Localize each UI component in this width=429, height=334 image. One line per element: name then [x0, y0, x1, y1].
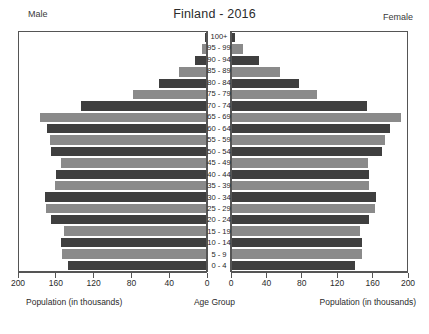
- bar-row: [232, 191, 407, 202]
- bar-row: [232, 112, 407, 123]
- male-bar-40-44[interactable]: [56, 170, 206, 179]
- axis-tick-label: 40: [164, 278, 173, 288]
- bar-row: [232, 43, 407, 54]
- female-bar-50-54[interactable]: [232, 147, 382, 156]
- age-group-label: 100+: [208, 31, 230, 42]
- female-bar-30-34[interactable]: [232, 192, 376, 201]
- female-bar-70-74[interactable]: [232, 101, 367, 110]
- male-bar-85-89[interactable]: [179, 67, 206, 76]
- bar-row: [19, 112, 206, 123]
- bar-row: [19, 260, 206, 271]
- male-bar-80-84[interactable]: [159, 79, 206, 88]
- age-group-label: 45 - 49: [208, 157, 230, 168]
- age-group-label: 70 - 74: [208, 100, 230, 111]
- bar-row: [19, 225, 206, 236]
- female-bar-80-84[interactable]: [232, 79, 299, 88]
- female-bar-95-99[interactable]: [232, 44, 243, 53]
- male-bar-10-14[interactable]: [61, 238, 206, 247]
- chart-title: Finland - 2016: [0, 7, 429, 21]
- male-bar-45-49[interactable]: [61, 158, 206, 167]
- male-bar-35-39[interactable]: [55, 181, 206, 190]
- male-bar-15-19[interactable]: [64, 226, 206, 235]
- age-group-label: 65 - 69: [208, 111, 230, 122]
- bar-row: [232, 214, 407, 225]
- age-group-axis-labels: 100+95 - 9990 - 9485 - 8980 - 8475 - 797…: [207, 31, 231, 272]
- age-group-label: 5 - 9: [208, 249, 230, 260]
- age-group-label: 90 - 94: [208, 54, 230, 65]
- male-bar-30-34[interactable]: [45, 192, 206, 201]
- female-bar-10-14[interactable]: [232, 238, 362, 247]
- male-bar-5-9[interactable]: [62, 249, 206, 258]
- female-bar-5-9[interactable]: [232, 249, 362, 258]
- female-bar-100+[interactable]: [232, 33, 235, 42]
- male-bar-55-59[interactable]: [50, 135, 206, 144]
- male-bar-95-99[interactable]: [202, 44, 206, 53]
- female-bar-55-59[interactable]: [232, 135, 385, 144]
- bar-row: [19, 123, 206, 134]
- female-bar-rows: [232, 32, 407, 271]
- male-bar-100+[interactable]: [205, 33, 206, 42]
- female-bar-35-39[interactable]: [232, 181, 369, 190]
- male-bar-0-4[interactable]: [68, 261, 206, 270]
- bar-row: [19, 43, 206, 54]
- female-axis-title: Population (in thousands): [320, 297, 416, 307]
- female-bar-85-89[interactable]: [232, 67, 280, 76]
- bar-row: [19, 146, 206, 157]
- axis-tick-label: 160: [366, 278, 380, 288]
- bar-row: [19, 100, 206, 111]
- male-bar-75-79[interactable]: [133, 90, 206, 99]
- bar-row: [19, 237, 206, 248]
- bar-row: [19, 203, 206, 214]
- axis-tick-label: 80: [127, 278, 136, 288]
- female-bar-45-49[interactable]: [232, 158, 368, 167]
- bar-row: [232, 78, 407, 89]
- female-bar-20-24[interactable]: [232, 215, 369, 224]
- female-bar-15-19[interactable]: [232, 226, 360, 235]
- bar-row: [19, 55, 206, 66]
- bar-row: [232, 248, 407, 259]
- axis-tick-label: 200: [11, 278, 25, 288]
- male-bar-60-64[interactable]: [47, 124, 206, 133]
- population-pyramid-chart: Male Finland - 2016 Female 100+95 - 9990…: [0, 0, 429, 334]
- bar-row: [232, 203, 407, 214]
- age-group-label: 25 - 29: [208, 203, 230, 214]
- age-group-label: 80 - 84: [208, 77, 230, 88]
- bar-row: [232, 66, 407, 77]
- bar-row: [19, 66, 206, 77]
- axis-tick-label: 160: [49, 278, 63, 288]
- female-bar-90-94[interactable]: [232, 56, 259, 65]
- age-group-label: 35 - 39: [208, 180, 230, 191]
- bar-row: [232, 225, 407, 236]
- male-bar-20-24[interactable]: [51, 215, 206, 224]
- female-bar-60-64[interactable]: [232, 124, 390, 133]
- age-group-label: 10 - 14: [208, 237, 230, 248]
- bar-row: [19, 78, 206, 89]
- bar-row: [19, 32, 206, 43]
- bar-row: [19, 134, 206, 145]
- male-bar-65-69[interactable]: [40, 113, 206, 122]
- bar-row: [232, 180, 407, 191]
- bar-row: [232, 100, 407, 111]
- bar-row: [232, 89, 407, 100]
- male-bar-25-29[interactable]: [46, 204, 206, 213]
- axis-tick-label: 80: [297, 278, 306, 288]
- bar-row: [232, 134, 407, 145]
- age-group-label: 20 - 24: [208, 215, 230, 226]
- female-bar-40-44[interactable]: [232, 170, 369, 179]
- male-bar-70-74[interactable]: [81, 101, 206, 110]
- female-bar-0-4[interactable]: [232, 261, 355, 270]
- axis-tick-label: 40: [262, 278, 271, 288]
- age-group-label: 55 - 59: [208, 134, 230, 145]
- female-bar-25-29[interactable]: [232, 204, 375, 213]
- age-group-label: 60 - 64: [208, 123, 230, 134]
- axis-tick-label: 0: [205, 278, 210, 288]
- male-bar-50-54[interactable]: [51, 147, 206, 156]
- male-bar-90-94[interactable]: [195, 56, 206, 65]
- male-x-tick-labels: 20016012080400: [18, 278, 207, 290]
- age-group-label: 50 - 54: [208, 146, 230, 157]
- male-plot-area: [18, 31, 207, 272]
- female-bar-75-79[interactable]: [232, 90, 317, 99]
- bar-row: [19, 180, 206, 191]
- female-bar-65-69[interactable]: [232, 113, 401, 122]
- age-group-label: 85 - 89: [208, 65, 230, 76]
